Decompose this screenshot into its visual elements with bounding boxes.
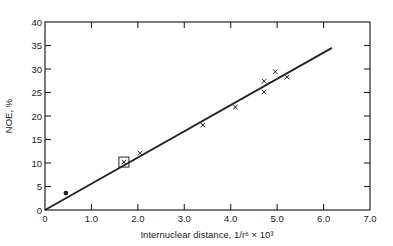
y-tick-label: 20 bbox=[31, 111, 42, 122]
x-tick-label: 7.0 bbox=[363, 213, 376, 224]
noe-chart: 01.02.03.04.05.06.07.00510152025303540 I… bbox=[0, 0, 393, 246]
x-axis-label: Internuclear distance, 1/r⁶ × 10³ bbox=[140, 229, 273, 240]
x-tick-label: 0 bbox=[42, 213, 47, 224]
y-tick-label: 15 bbox=[31, 134, 42, 145]
y-tick-label: 5 bbox=[37, 181, 42, 192]
y-tick-label: 10 bbox=[31, 158, 42, 169]
y-tick-label: 35 bbox=[31, 40, 42, 51]
x-tick-label: 1.0 bbox=[85, 213, 98, 224]
x-marker bbox=[138, 151, 143, 156]
x-marker bbox=[122, 160, 127, 165]
x-tick-label: 3.0 bbox=[178, 213, 191, 224]
x-tick-label: 2.0 bbox=[131, 213, 144, 224]
data-points bbox=[63, 70, 289, 196]
y-tick-label: 40 bbox=[31, 17, 42, 28]
y-axis-label: NOE, % bbox=[3, 98, 14, 133]
y-tick-label: 0 bbox=[37, 205, 42, 216]
dot-marker bbox=[63, 191, 68, 196]
y-tick-label: 25 bbox=[31, 87, 42, 98]
fit-line bbox=[45, 48, 332, 210]
x-marker bbox=[273, 70, 278, 75]
x-tick-label: 5.0 bbox=[271, 213, 284, 224]
y-tick-label: 30 bbox=[31, 64, 42, 75]
x-marker bbox=[262, 79, 267, 84]
x-marker bbox=[285, 75, 290, 80]
x-marker bbox=[233, 105, 238, 110]
x-marker bbox=[201, 123, 206, 128]
x-tick-label: 4.0 bbox=[224, 213, 237, 224]
x-marker bbox=[262, 90, 267, 95]
x-tick-label: 6.0 bbox=[317, 213, 330, 224]
